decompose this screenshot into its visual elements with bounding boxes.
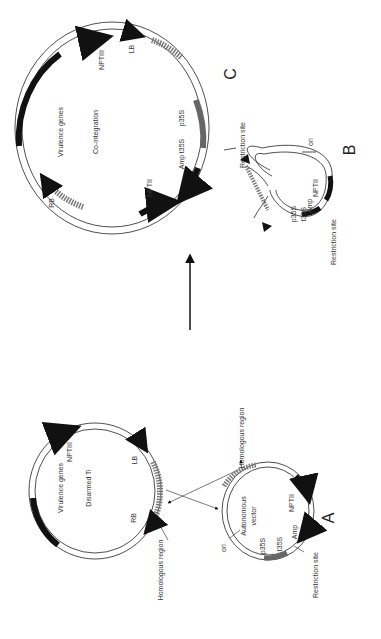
- ti-homologous-region: [153, 462, 160, 515]
- c-p35s-label: p35S: [178, 110, 186, 127]
- c-lb-marker: [134, 34, 142, 36]
- c-homologous-region: [152, 40, 182, 58]
- c-amp-gene: [180, 168, 198, 200]
- a-amp-gene: [300, 520, 310, 540]
- b-restriction-label: Restriction site: [330, 219, 337, 265]
- ti-rb-label: RB: [130, 513, 137, 523]
- panel-label-a: A: [320, 512, 337, 523]
- a-nptii-gene: [296, 476, 309, 500]
- c-nptiii-gene: [88, 37, 108, 44]
- ti-homologous-label: Homologous region: [157, 540, 165, 601]
- ti-rb-marker: [146, 524, 152, 532]
- c-virulence-label: Virulence genes: [57, 106, 65, 157]
- ti-lb-label: LB: [131, 455, 138, 464]
- c-amp-label: Amp: [178, 155, 186, 170]
- panel-label-c: C: [222, 68, 239, 80]
- b-ori-label: ori: [307, 138, 314, 146]
- ti-virulence-label: Virulence genes: [57, 462, 65, 513]
- b-nptii-gene: [326, 176, 331, 200]
- ti-virulence-block: [33, 498, 58, 545]
- homology-arrow-1: [166, 490, 218, 509]
- c-lb-label: LB: [128, 44, 135, 53]
- c-center-label: Co-integration: [92, 110, 100, 154]
- co-integration-diagram: Virulence genes Co-integration NPTIII LB…: [0, 0, 381, 639]
- a-outer-ring: [222, 462, 314, 560]
- b-amp-label: Amp: [306, 199, 314, 214]
- a-ori-label: ori: [220, 544, 227, 552]
- c-nptiii-label: NPTIII: [98, 50, 105, 70]
- panel-label-b: B: [341, 145, 358, 156]
- c-rb-label: RB: [48, 198, 55, 208]
- plasmid-c: Virulence genes Co-integration NPTIII LB…: [15, 22, 246, 234]
- plasmid-ti: Virulence genes Disarmed Ti NPTIII LB RB…: [29, 423, 168, 600]
- a-center-label-1: Autonomous: [240, 496, 247, 536]
- c-t35s-label: t35S: [178, 138, 185, 153]
- b-homologous-strand: [246, 166, 268, 210]
- b-strand-arrow-bottom: [262, 222, 272, 232]
- c-virulence-block: [19, 54, 60, 146]
- c-p35s-t35s-region: [196, 100, 203, 148]
- b-p35s-label: p35S: [290, 206, 298, 223]
- a-center-label-2: vector: [250, 506, 257, 526]
- a-p35s-t35s-region: [264, 553, 287, 558]
- a-nptii-label: NPTII: [288, 494, 295, 512]
- a-homologous-label: Homologous region: [238, 408, 246, 469]
- c-nptii-label: NPTII: [146, 179, 153, 197]
- plasmid-a: Autonomous vector ori p35S t35S Amp NPTI…: [220, 408, 337, 598]
- b-t35s-label: t35S: [300, 206, 307, 221]
- ti-nptiii-label: NPTIII: [66, 442, 73, 462]
- ti-homologous-pointer: [158, 522, 168, 540]
- ti-center-label: Disarmed Ti: [85, 469, 92, 507]
- ti-inner-ring: [35, 429, 155, 553]
- plasmid-c-inner-ring: [22, 29, 202, 227]
- c-restriction-tick: [224, 148, 236, 150]
- a-amp-label: Amp: [291, 525, 299, 540]
- a-t35s-label: t35S: [276, 536, 283, 551]
- ti-lb-marker: [140, 442, 146, 450]
- homology-arrow-2: [168, 470, 238, 503]
- a-p35s-label: p35S: [259, 538, 267, 555]
- plasmid-b: ori NPTII Amp t35S p35S Restriction site…: [240, 138, 358, 265]
- c-rb-marker: [42, 176, 48, 184]
- a-restriction-label: Restriction site: [312, 552, 319, 598]
- b-nptii-label: NPTII: [312, 179, 319, 197]
